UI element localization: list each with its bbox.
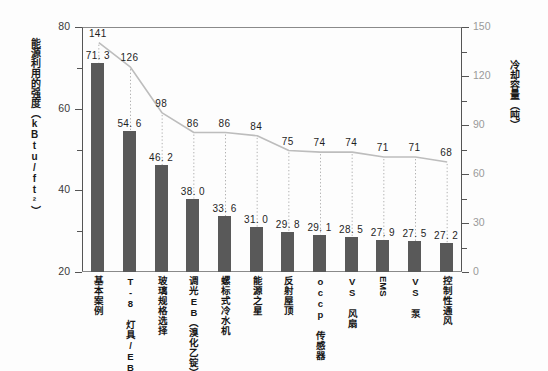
y-axis-right-tick-label: 60	[473, 167, 503, 179]
x-axis-baseline	[82, 271, 462, 272]
x-axis-category-label: VS 泵	[410, 276, 421, 319]
bar	[218, 216, 231, 272]
x-axis-category-label: 螺标式冷水机	[220, 276, 231, 336]
y-axis-right-minor-tick	[462, 52, 467, 53]
y-axis-right-title: 冷却容量（吨）	[508, 60, 519, 210]
x-axis-category-label: 控制性通风	[441, 276, 452, 326]
x-axis-category-label: VS 风扇	[346, 276, 357, 329]
x-axis-category-label: 基本案例	[93, 276, 104, 316]
chart-container: 能源利用的强度（kBtu/ft²） 冷却容量（吨） 20406080 03060…	[0, 0, 548, 371]
bar	[281, 232, 294, 272]
bar	[155, 165, 168, 272]
bar-value-label: 38. 0	[171, 186, 215, 197]
line-value-label: 126	[110, 52, 150, 63]
y-axis-left-tick-label: 60	[44, 102, 70, 114]
y-axis-right-minor-tick	[462, 248, 467, 249]
bar	[186, 199, 199, 273]
y-axis-left-tick-label: 80	[44, 20, 70, 32]
bar	[313, 235, 326, 272]
y-axis-right-tick	[462, 174, 469, 175]
x-axis-category-label: EMS	[378, 276, 389, 297]
line-value-label: 141	[78, 28, 118, 39]
y-axis-left-tick-label: 20	[44, 265, 70, 277]
y-axis-right-tick	[462, 223, 469, 224]
y-axis-left-title: 能源利用的强度（kBtu/ft²）	[29, 38, 40, 248]
x-axis-category-label: 玻璃规格选择	[156, 276, 167, 336]
y-axis-left-tick	[75, 272, 82, 273]
y-axis-right-tick	[462, 272, 469, 273]
bar-value-label: 33. 6	[203, 203, 247, 214]
x-axis-category-label: T-8 灯具/EB	[125, 276, 136, 371]
bar-value-label: 46. 2	[139, 152, 183, 163]
y-axis-right-tick	[462, 125, 469, 126]
bar	[440, 243, 453, 272]
bar	[91, 63, 104, 272]
bar	[376, 240, 389, 272]
y-axis-right-tick-label: 0	[473, 265, 503, 277]
x-axis-category-label: 调光EB（溴化乙锭）	[188, 276, 199, 371]
x-axis-category-label: 反射屋顶	[283, 276, 294, 316]
y-axis-right-tick	[462, 76, 469, 77]
y-axis-right-minor-tick	[462, 199, 467, 200]
y-axis-right-tick-label: 30	[473, 216, 503, 228]
line-value-label: 98	[141, 98, 181, 109]
y-axis-right-tick	[462, 27, 469, 28]
y-axis-right-minor-tick	[462, 101, 467, 102]
bar-value-label: 54. 6	[108, 118, 152, 129]
y-axis-right-tick-label: 120	[473, 69, 503, 81]
bar	[250, 227, 263, 272]
y-axis-left-tick	[75, 190, 82, 191]
bar	[123, 131, 136, 272]
bar-value-label: 27. 2	[424, 230, 468, 241]
line-value-label: 84	[236, 121, 276, 132]
bar	[408, 241, 421, 272]
y-axis-left-tick	[75, 109, 82, 110]
y-axis-left-tick-label: 40	[44, 183, 70, 195]
x-axis-category-label: occp 传感器	[315, 276, 326, 361]
bar	[345, 237, 358, 272]
y-axis-right-tick-label: 150	[473, 20, 503, 32]
y-axis-right-tick-label: 90	[473, 118, 503, 130]
x-axis-category-label: 能源之星	[251, 276, 262, 316]
line-value-label: 68	[426, 147, 466, 158]
